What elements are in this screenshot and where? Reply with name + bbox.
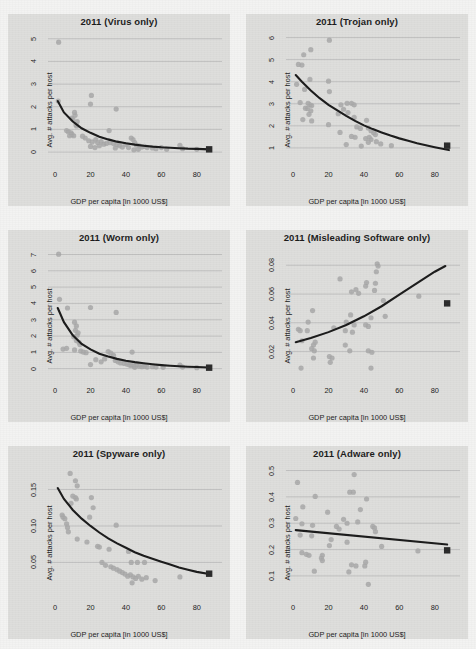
data-point — [349, 289, 354, 294]
data-point — [56, 40, 61, 45]
panel-title: 2011 (Worm only) — [8, 232, 230, 243]
data-point — [73, 478, 78, 483]
x-axis-label: GDP per capita [in 1000 US$] — [246, 630, 468, 639]
data-point — [91, 505, 96, 510]
data-point — [92, 145, 97, 150]
data-point — [301, 52, 306, 57]
data-point — [352, 472, 357, 477]
data-point — [306, 553, 311, 558]
plot-area — [8, 14, 230, 206]
data-point — [348, 312, 353, 317]
data-point — [84, 539, 89, 544]
data-point — [106, 547, 111, 552]
data-point — [68, 471, 73, 476]
data-point — [310, 523, 315, 528]
data-point — [307, 77, 312, 82]
x-axis-label: GDP per capita [in 1000 US$] — [8, 630, 230, 639]
data-point — [347, 348, 352, 353]
data-point — [366, 582, 371, 587]
data-point — [62, 516, 67, 521]
data-point — [353, 563, 358, 568]
plot-area — [246, 230, 468, 422]
data-point — [364, 496, 369, 501]
data-point — [344, 521, 349, 526]
data-point — [373, 529, 378, 534]
data-point — [373, 281, 378, 286]
y-axis-label: Avg. # attacks per host — [45, 505, 54, 580]
x-axis-label: GDP per capita [in 1000 US$] — [8, 413, 230, 422]
x-axis-label: GDP per capita [in 1000 US$] — [246, 197, 468, 206]
data-point — [313, 494, 318, 499]
data-point — [177, 574, 182, 579]
data-point — [356, 291, 361, 296]
data-point — [89, 495, 94, 500]
data-point — [326, 122, 331, 127]
data-point — [325, 510, 330, 515]
data-point — [88, 305, 93, 310]
data-point — [415, 548, 420, 553]
chart-panel: 2011 (Virus only)Avg. # attacks per host… — [0, 0, 238, 216]
data-point — [145, 364, 150, 369]
data-point — [153, 578, 158, 583]
data-point — [300, 504, 305, 509]
data-point — [114, 523, 119, 528]
data-point — [306, 112, 311, 117]
data-point — [126, 145, 131, 150]
data-point — [312, 348, 317, 353]
panel-title: 2011 (Adware only) — [246, 448, 468, 459]
data-point — [87, 515, 92, 520]
data-point — [298, 532, 303, 537]
highlight-marker — [206, 570, 212, 576]
panel-background: 2011 (Virus only)Avg. # attacks per host… — [8, 14, 230, 206]
data-point — [75, 536, 80, 541]
data-point — [65, 305, 70, 310]
data-point — [366, 324, 371, 329]
data-point — [113, 145, 118, 150]
chart-panel: 2011 (Trojan only)Avg. # attacks per hos… — [238, 0, 476, 216]
data-point — [83, 350, 88, 355]
data-point — [368, 315, 373, 320]
data-point — [343, 328, 348, 333]
data-point — [88, 362, 93, 367]
data-point — [337, 130, 342, 135]
data-point — [364, 118, 369, 123]
data-point — [103, 563, 108, 568]
data-point — [381, 298, 386, 303]
data-point — [358, 507, 363, 512]
data-point — [135, 560, 140, 565]
data-point — [328, 360, 333, 365]
data-point — [88, 144, 93, 149]
data-point — [350, 330, 355, 335]
data-point — [60, 347, 65, 352]
data-point — [130, 580, 135, 585]
data-point — [327, 89, 332, 94]
scatter-points — [60, 471, 183, 586]
highlight-marker — [444, 300, 450, 306]
highlight-marker — [206, 146, 212, 152]
data-point — [310, 308, 315, 313]
data-point — [57, 297, 62, 302]
panel-background: 2011 (Trojan only)Avg. # attacks per hos… — [246, 14, 468, 206]
data-point — [299, 63, 304, 68]
data-point — [299, 550, 304, 555]
data-point — [362, 563, 367, 568]
y-axis-label: Avg. # attacks per host — [45, 288, 54, 363]
data-point — [352, 322, 357, 327]
y-axis-label: Avg. # attacks per host — [45, 72, 54, 147]
data-point — [106, 128, 111, 133]
data-point — [132, 365, 137, 370]
data-point — [298, 100, 303, 105]
data-point — [309, 103, 314, 108]
plot-area — [246, 446, 468, 639]
panel-title: 2011 (Virus only) — [8, 16, 230, 27]
data-point — [358, 126, 363, 131]
y-axis-label: Avg. # attacks per host — [283, 505, 292, 580]
chart-panel: 2011 (Misleading Software only)Avg. # at… — [238, 216, 476, 432]
data-point — [352, 102, 357, 107]
data-point — [56, 252, 61, 257]
scatter-points — [56, 40, 200, 153]
data-point — [344, 101, 349, 106]
panel-background: 2011 (Misleading Software only)Avg. # at… — [246, 230, 468, 422]
data-point — [131, 147, 136, 152]
data-point — [298, 365, 303, 370]
